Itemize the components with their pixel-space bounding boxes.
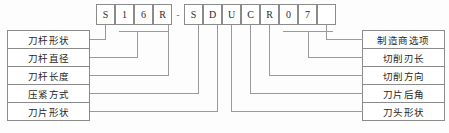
leader-left-3-horizontal (90, 75, 169, 76)
left-label-bar-length: 刀杆长度 (7, 66, 90, 85)
left-label-insert-shape: 刀片形状 (7, 102, 90, 121)
code-cell-8: C (241, 4, 260, 25)
leader-left-2-vertical (137, 31, 138, 57)
leader-left-5-horizontal (90, 111, 218, 112)
code-cell-6: D (203, 4, 222, 25)
leader-left-2-bracket (119, 31, 169, 32)
left-label-bar-diameter: 刀杆直径 (7, 48, 90, 67)
leader-right-4-horizontal (250, 93, 363, 94)
right-label-head-shape: 刀头形状 (362, 102, 445, 121)
code-cell-3: 6 (134, 4, 153, 25)
leader-left-4-horizontal (90, 93, 199, 94)
leader-left-1-horizontal (90, 39, 106, 40)
right-label-insert-relief-angle: 刀片后角 (362, 84, 445, 103)
leader-left-5-vertical (217, 25, 218, 111)
code-separator-dash: - (172, 4, 184, 25)
code-cell-12 (317, 4, 336, 25)
right-label-cutting-edge-length: 切削刃长 (362, 48, 445, 67)
leader-right-4-vertical (250, 25, 251, 93)
code-cell-4: R (153, 4, 172, 25)
code-cell-7: U (222, 4, 241, 25)
leader-right-5-vertical (231, 25, 232, 111)
right-label-cutting-direction: 切削方向 (362, 66, 445, 85)
left-label-clamping-method: 压紧方式 (7, 84, 90, 103)
leader-right-3-vertical (269, 25, 270, 75)
leader-left-1-vertical (105, 25, 106, 40)
leader-right-3-horizontal (269, 75, 363, 76)
code-cell-10: 0 (279, 4, 298, 25)
leader-right-5-horizontal (231, 111, 363, 112)
code-cell-9: R (260, 4, 279, 25)
leader-right-2-vertical (308, 31, 309, 57)
leader-left-4-vertical (198, 25, 199, 93)
left-label-bar-shape: 刀杆形状 (7, 30, 90, 49)
right-label-manufacturer-option: 制造商选项 (362, 30, 445, 49)
code-cell-5: S (184, 4, 203, 25)
leader-left-2-horizontal (90, 57, 138, 58)
bottom-caption-cropped (0, 124, 449, 133)
code-cell-11: 7 (298, 4, 317, 25)
code-cell-1: S (96, 4, 115, 25)
leader-right-1-vertical (326, 25, 327, 40)
tool-code-diagram: S 1 6 R - S D U C R 0 7 刀杆形状 刀杆直径 刀杆长度 压… (0, 0, 449, 133)
code-cell-2: 1 (115, 4, 134, 25)
leader-left-3-vertical (168, 25, 169, 75)
leader-right-2-horizontal (308, 57, 363, 58)
leader-right-1-horizontal (326, 39, 363, 40)
